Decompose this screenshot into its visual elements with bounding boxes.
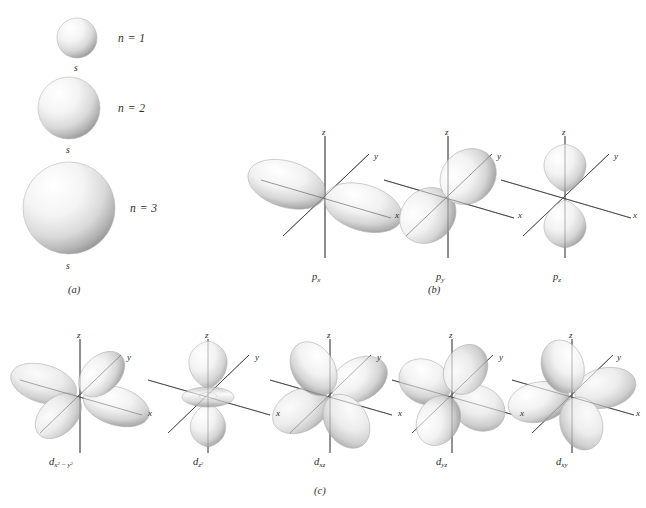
dz2-label-sub: z2	[198, 461, 203, 469]
s-orbital-n-label-1s: n = 1	[118, 33, 146, 45]
d-orbital-dz2	[148, 339, 270, 453]
dyz-axis-label-x: x	[520, 409, 524, 418]
px-axis-label-x: x	[395, 211, 399, 220]
s-orbital-sphere-1s	[57, 18, 97, 58]
s-orbital-n-label-2s: n = 2	[118, 103, 146, 115]
dyz-axis-label-y: y	[499, 353, 503, 362]
dx2y2-sup-2: 2	[71, 461, 73, 466]
p-orbital-label-px: px	[312, 272, 320, 284]
s-orbital-label-2s: s	[66, 146, 70, 156]
py-axis-label-z: z	[445, 128, 449, 137]
s-orbital-label-1s: s	[74, 64, 78, 74]
s-orbital-n-label-3s: n = 3	[130, 203, 158, 215]
p-orbital-px	[242, 136, 408, 258]
d-orbital-dyz	[391, 337, 514, 454]
dyz-axis-label-z: z	[449, 331, 453, 340]
pz-axis-label-z: z	[562, 128, 566, 137]
px-label-sub: x	[317, 276, 320, 284]
dxz-label-sub: xz	[319, 461, 325, 469]
p-orbital-label-py: py	[436, 272, 444, 284]
dz2-axis-label-y: y	[255, 353, 259, 362]
dx2y2-axis-label-z: z	[77, 331, 81, 340]
dxz-axis-label-x: x	[398, 409, 402, 418]
d-orbital-label-dz2: dz2	[193, 457, 203, 469]
dx2y2-axis-label-y: y	[127, 353, 131, 362]
orbital-svg	[0, 0, 646, 508]
s-orbital-sphere-2s	[38, 77, 100, 139]
d-orbital-dx2y2	[6, 339, 155, 453]
d-orbital-label-dx2y2: dx2 − y2	[49, 457, 73, 469]
d-orbital-label-dxy: dxy	[556, 457, 568, 469]
d-orbital-dxz	[265, 333, 396, 457]
orbital-figure	[0, 0, 646, 508]
dxz-axis-label-y: y	[377, 353, 381, 362]
px-lobe-positive	[318, 174, 408, 241]
dz2-axis-label-x: x	[276, 409, 280, 418]
d-orbital-label-dxz: dxz	[314, 457, 325, 469]
p-orbital-py	[384, 136, 514, 258]
py-axis-label-x: x	[518, 211, 522, 220]
dx2y2-axis-label-x: x	[148, 409, 152, 418]
pz-axis-label-x: x	[633, 211, 637, 220]
pz-label-sub: z	[558, 276, 561, 284]
p-orbital-label-pz: pz	[553, 272, 561, 284]
p-orbital-pz	[501, 136, 631, 258]
d-orbital-label-dyz: dyz	[436, 457, 447, 469]
dxy-axis-label-x: x	[636, 409, 640, 418]
panel-label-a: (a)	[68, 285, 80, 296]
s-orbital-sphere-3s	[23, 162, 115, 254]
dxy-label-sub: xy	[561, 461, 567, 469]
dxy-axis-label-z: z	[569, 331, 573, 340]
panel-label-c: (c)	[314, 486, 326, 497]
pz-axis-label-y: y	[614, 152, 618, 161]
s-orbital-label-3s: s	[66, 262, 70, 272]
dxz-axis-label-z: z	[327, 331, 331, 340]
dz2-sup-1: 2	[201, 461, 203, 466]
dxy-axis-label-y: y	[617, 353, 621, 362]
dz2-axis-label-z: z	[205, 331, 209, 340]
px-axis-label-z: z	[322, 128, 326, 137]
panel-label-b: (b)	[428, 285, 440, 296]
py-label-sub: y	[441, 276, 444, 284]
panel-a-s-orbitals	[23, 18, 115, 254]
dyz-label-sub: yz	[441, 461, 447, 469]
px-axis-label-y: y	[374, 152, 378, 161]
dx2y2-label-sub: x2 − y2	[54, 461, 73, 469]
py-axis-label-y: y	[497, 152, 501, 161]
px-lobe-negative	[242, 151, 332, 218]
